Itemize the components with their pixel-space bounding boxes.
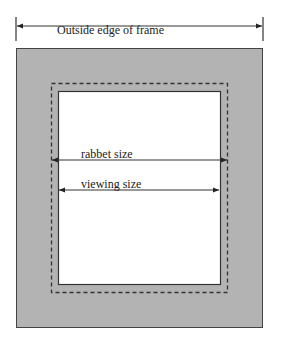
outside-edge-label: Outside edge of frame bbox=[57, 24, 164, 36]
frame-diagram bbox=[0, 0, 282, 339]
viewing-size-label: viewing size bbox=[81, 178, 141, 190]
rabbet-size-label: rabbet size bbox=[81, 148, 133, 160]
